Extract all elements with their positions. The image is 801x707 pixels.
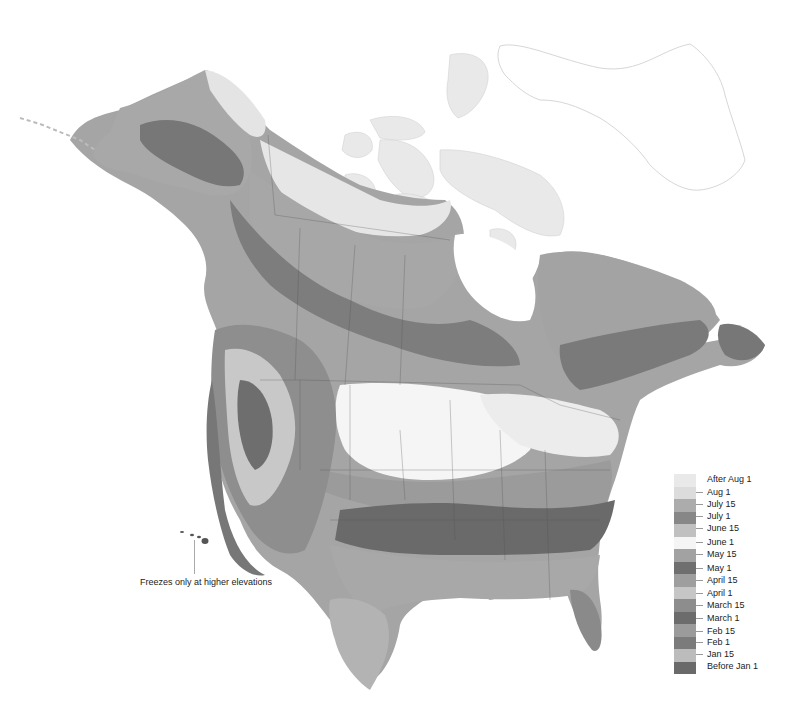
legend-swatch-june-15 bbox=[674, 524, 696, 537]
legend-label: April 15 bbox=[696, 574, 738, 586]
legend-label: Jan 15 bbox=[696, 648, 734, 660]
texas bbox=[329, 598, 389, 690]
legend-swatch-may-15 bbox=[674, 549, 696, 562]
legend-label: Before Jan 1 bbox=[696, 660, 758, 672]
legend-swatch-july-15 bbox=[674, 499, 696, 512]
legend-label: July 15 bbox=[696, 498, 736, 510]
legend-swatch-aug-1 bbox=[674, 487, 696, 500]
legend-swatch-july-1 bbox=[674, 512, 696, 525]
legend-label: June 1 bbox=[696, 536, 734, 548]
legend-swatch-april-1 bbox=[674, 587, 696, 600]
greenland-outline bbox=[498, 44, 745, 190]
legend-label: March 1 bbox=[696, 612, 740, 624]
legend-label: Aug 1 bbox=[696, 486, 731, 498]
legend-swatch-after-aug-1 bbox=[674, 474, 696, 487]
legend-swatch-jan-15 bbox=[674, 649, 696, 662]
legend-swatches bbox=[674, 474, 696, 674]
legend-swatch-before-jan-1 bbox=[674, 662, 696, 675]
legend-swatch-feb-15 bbox=[674, 624, 696, 637]
legend-swatch-march-15 bbox=[674, 599, 696, 612]
legend-swatch-may-1 bbox=[674, 562, 696, 575]
hawaii-annotation: Freezes only at higher elevations bbox=[140, 577, 272, 587]
legend-label: Feb 1 bbox=[696, 636, 730, 648]
legend-label: After Aug 1 bbox=[696, 473, 752, 485]
legend-swatch-feb-1 bbox=[674, 637, 696, 650]
us-south-dark bbox=[335, 500, 615, 555]
legend-label: May 1 bbox=[696, 562, 732, 574]
annotation-leader-line bbox=[194, 540, 195, 574]
legend-label: March 15 bbox=[696, 599, 745, 611]
legend-label: May 15 bbox=[696, 548, 737, 560]
legend-swatch-april-15 bbox=[674, 574, 696, 587]
legend-label: June 15 bbox=[696, 522, 739, 534]
legend-label: April 1 bbox=[696, 587, 733, 599]
legend-label: July 1 bbox=[696, 510, 731, 522]
legend-swatch-june-1 bbox=[674, 537, 696, 550]
legend-swatch-march-1 bbox=[674, 612, 696, 625]
newfoundland bbox=[718, 324, 765, 361]
